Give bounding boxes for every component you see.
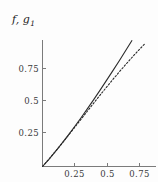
plot-canvas: f, g1 0.75 0.5 0.25 0.25 0.5 0.75: [0, 0, 158, 182]
axis-label: f, g1: [11, 13, 35, 28]
y-tick-label-025: 0.25: [18, 128, 39, 138]
plot-figure: f, g1 0.75 0.5 0.25 0.25 0.5 0.75: [0, 0, 158, 182]
y-tick-label-075: 0.75: [18, 64, 39, 74]
x-tick-label-075: 0.75: [129, 169, 150, 179]
curve-f: [43, 40, 133, 166]
x-tick-label-05: 0.5: [100, 169, 115, 179]
y-tick-label-05: 0.5: [24, 96, 39, 106]
x-tick-label-025: 0.25: [64, 169, 85, 179]
axis-label-subscript: 1: [30, 19, 35, 28]
axis-label-main: f, g: [11, 13, 30, 26]
